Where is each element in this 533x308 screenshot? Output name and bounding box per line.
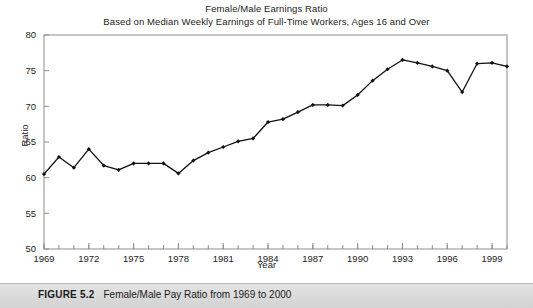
figure-caption-text: Female/Male Pay Ratio from 1969 to 2000 bbox=[103, 289, 291, 300]
plot-area: 5055606570758019691972197519781981198419… bbox=[0, 0, 533, 275]
y-axis-tick-label: 80 bbox=[25, 29, 36, 40]
x-axis-label: Year bbox=[0, 259, 533, 270]
y-axis-label: Ratio bbox=[19, 106, 30, 166]
figure-caption: FIGURE 5.2Female/Male Pay Ratio from 196… bbox=[38, 289, 291, 300]
figure-caption-band: FIGURE 5.2Female/Male Pay Ratio from 196… bbox=[0, 283, 533, 308]
y-axis-tick-label: 55 bbox=[25, 208, 36, 219]
plot-frame bbox=[44, 35, 507, 249]
line-chart: 5055606570758019691972197519781981198419… bbox=[0, 0, 533, 275]
figure-caption-label: FIGURE 5.2 bbox=[38, 289, 94, 300]
y-axis-tick-label: 60 bbox=[25, 172, 36, 183]
y-axis-tick-label: 75 bbox=[25, 65, 36, 76]
